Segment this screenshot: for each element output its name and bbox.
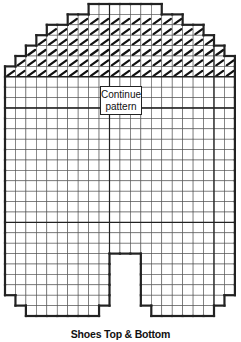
chart-caption: Shoes Top & Bottom xyxy=(0,328,241,340)
continue-pattern-note: Continue pattern xyxy=(100,86,142,115)
stitch-chart xyxy=(0,0,241,342)
note-line-2: pattern xyxy=(101,101,141,113)
note-line-1: Continue xyxy=(101,89,141,101)
